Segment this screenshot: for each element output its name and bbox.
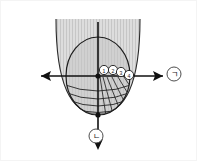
marker-1-label: 1 <box>103 68 106 74</box>
origin-point <box>95 73 100 78</box>
marker-3-label: 3 <box>120 70 123 76</box>
label-giyeok-text: ㄱ <box>171 70 178 79</box>
marker-2-label: 2 <box>112 68 115 74</box>
marker-4[interactable]: 4 <box>124 70 133 79</box>
label-nieun: ㄴ <box>89 129 103 143</box>
diagram-canvas: 1 2 3 4 ㄱ ㄴ <box>0 0 197 161</box>
figure-frame: Parabola and inscribed ellipse coordinat… <box>0 0 197 161</box>
label-giyeok: ㄱ <box>167 67 181 81</box>
lower-vertex-point <box>95 112 100 117</box>
label-nieun-text: ㄴ <box>93 132 100 141</box>
marker-1[interactable]: 1 <box>99 65 108 74</box>
marker-4-label: 4 <box>128 73 131 79</box>
